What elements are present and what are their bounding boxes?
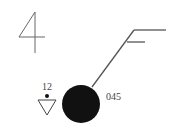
pressure-label: 045 — [106, 91, 121, 102]
present-weather-digit — [19, 12, 45, 53]
wind-barb — [92, 30, 166, 87]
rain-dot-icon — [45, 94, 49, 98]
shower-triangle-icon — [38, 100, 56, 115]
cloud-cover-circle — [62, 85, 100, 123]
wind-staff — [92, 30, 134, 87]
station-model: 12 045 — [0, 0, 178, 131]
pressure-tendency-label: 12 — [42, 81, 52, 92]
